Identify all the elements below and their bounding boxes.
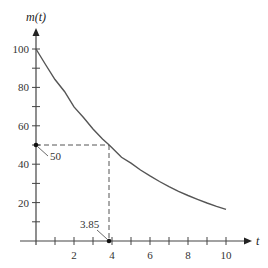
half-life-leader <box>97 230 107 239</box>
y-axis-arrow-icon <box>33 28 40 36</box>
y-tick-label: 20 <box>18 197 30 209</box>
axes <box>20 28 252 245</box>
y-tick-label: 40 <box>18 158 30 170</box>
y-tick-labels: 100 80 60 40 20 <box>13 43 30 209</box>
y-tick-label: 100 <box>13 43 30 55</box>
x-axis-title: t <box>256 234 260 248</box>
y-tick-label: 60 <box>18 120 30 132</box>
y-tick-label: 80 <box>18 81 30 93</box>
half-value-point <box>34 143 39 148</box>
y-axis-title: m(t) <box>26 10 46 24</box>
x-tick-label: 2 <box>71 249 77 261</box>
x-tick-label: 4 <box>109 249 115 261</box>
half-value-label: 50 <box>50 150 62 162</box>
chart-svg: 100 80 60 40 20 2 4 6 8 10 m(t) t 50 3.8… <box>0 0 268 268</box>
x-axis-arrow-icon <box>244 238 252 245</box>
x-tick-label: 8 <box>185 249 191 261</box>
x-tick-labels: 2 4 6 8 10 <box>71 249 232 261</box>
half-life-point <box>107 239 112 244</box>
x-tick-label: 6 <box>147 249 153 261</box>
decay-curve <box>36 49 226 209</box>
x-tick-label: 10 <box>221 249 233 261</box>
half-value-leader <box>38 147 48 156</box>
half-life-label: 3.85 <box>80 218 100 230</box>
